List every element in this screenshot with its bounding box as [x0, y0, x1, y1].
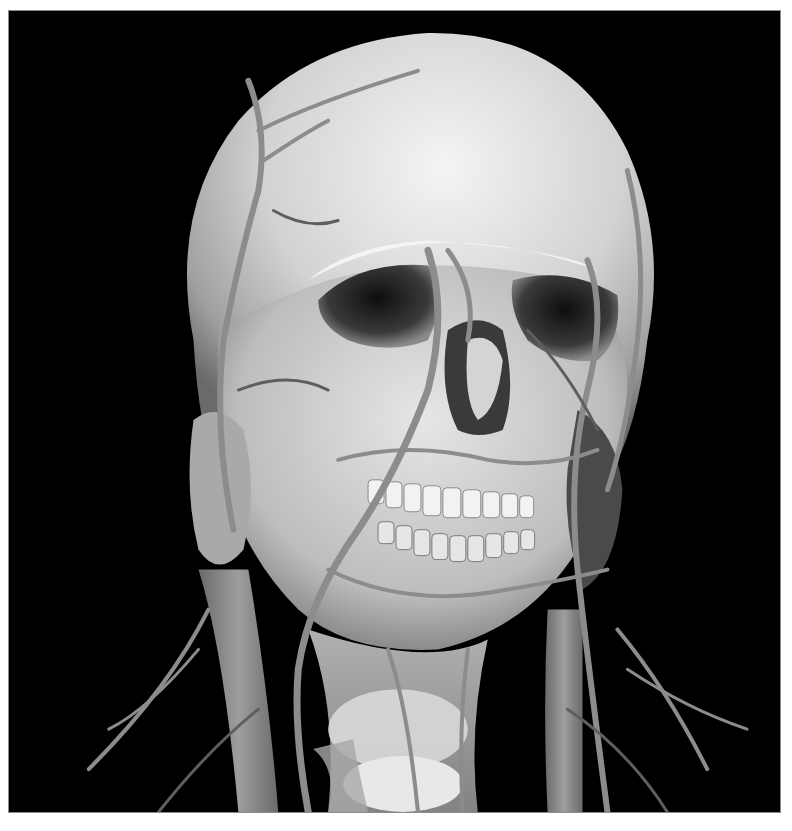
skull-vasculature-illustration	[9, 11, 780, 812]
anatomy-render-frame	[8, 10, 781, 813]
